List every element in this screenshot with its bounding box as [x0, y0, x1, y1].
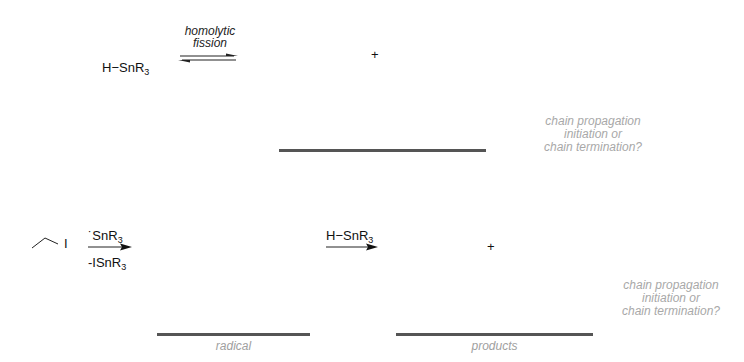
iodotin-byproduct: -ISnR3: [88, 255, 126, 272]
question2-line3: chain termination?: [604, 305, 738, 318]
chain-step-question-1: chain propagation initiation or chain te…: [530, 115, 656, 154]
reactant-text: H−SnR: [102, 60, 144, 75]
question-line3: chain termination?: [530, 141, 656, 154]
radical-label: radical: [157, 339, 310, 353]
byproduct-subscript: 3: [121, 262, 126, 272]
byproduct-text: -ISnR: [88, 255, 121, 270]
iodine-atom: I: [64, 236, 68, 251]
chain-step-question-2: chain propagation initiation or chain te…: [604, 279, 738, 318]
answer-blank-1[interactable]: [279, 149, 486, 152]
arrow-label-line2: fission: [178, 37, 242, 49]
reagent2-text: H−SnR: [326, 228, 368, 243]
plus-sign-2: +: [487, 239, 495, 254]
products-label: products: [396, 339, 593, 353]
forward-arrow-1-icon: [88, 243, 132, 251]
reactant-subscript: 3: [144, 67, 149, 77]
tin-hydride-reactant: H−SnR3: [102, 60, 149, 77]
homolytic-fission-label: homolytic fission: [178, 25, 242, 49]
forward-arrow-2-icon: [326, 243, 378, 251]
plus-sign-1: +: [371, 47, 379, 62]
radical-answer-blank[interactable]: [157, 333, 310, 336]
products-answer-blank[interactable]: [396, 333, 593, 336]
reagent-text: ˙SnR: [88, 228, 118, 243]
equilibrium-arrow-icon: [176, 52, 240, 64]
